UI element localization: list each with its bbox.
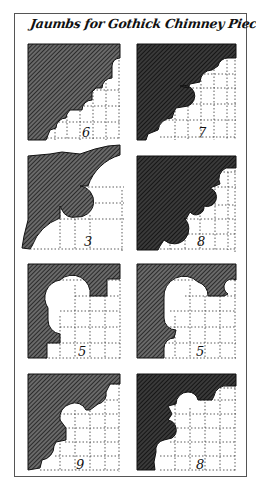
panel-jamb-5a: 5 <box>28 264 120 360</box>
jamb-profile <box>22 145 120 249</box>
panel-jamb-8a: 8 <box>137 156 236 252</box>
jamb-profile <box>137 156 236 250</box>
panel-jamb-8b: 8 <box>137 374 236 472</box>
panel-jamb-7: 7 <box>137 44 236 140</box>
panel-label: 9 <box>76 457 84 472</box>
panel-label: 3 <box>84 234 92 249</box>
panel-jamb-3: 3 <box>22 145 124 252</box>
panel-jamb-5b: 5 <box>137 264 236 360</box>
jamb-profile <box>137 44 236 140</box>
panel-label: 5 <box>196 344 204 359</box>
jamb-profile <box>137 264 236 358</box>
jamb-drawings: 6 7 3 <box>0 0 256 495</box>
panel-label: 8 <box>196 457 204 472</box>
panel-label: 7 <box>198 125 207 140</box>
panel-label: 8 <box>197 234 205 249</box>
panel-jamb-6: 6 <box>28 44 120 140</box>
panel-label: 5 <box>78 344 86 359</box>
panel-label: 6 <box>82 125 90 140</box>
panel-jamb-9: 9 <box>28 374 120 472</box>
